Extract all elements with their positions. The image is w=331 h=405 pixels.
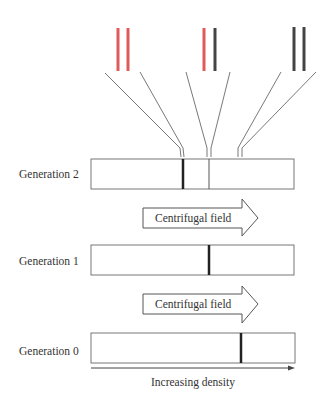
duplex-hybrid	[204, 28, 215, 71]
centrifugal-field-arrow-1: Centrifugal field	[143, 199, 258, 236]
diagram-canvas: Generation 2 Centrifugal field Generatio…	[0, 0, 331, 405]
label-generation-2: Generation 2	[19, 168, 79, 180]
label-generation-0: Generation 0	[19, 345, 79, 357]
duplex-heavy-heavy	[118, 28, 128, 71]
svg-text:Centrifugal field: Centrifugal field	[155, 298, 232, 311]
fan-lines	[105, 72, 316, 157]
density-axis-arrow	[91, 366, 295, 371]
centrifugal-field-arrow-2: Centrifugal field	[143, 286, 258, 323]
svg-text:Centrifugal field: Centrifugal field	[155, 212, 232, 225]
tube-generation-2	[91, 159, 294, 189]
tube-generation-1	[91, 245, 294, 275]
label-generation-1: Generation 1	[19, 255, 79, 267]
tube-generation-0	[91, 333, 295, 363]
duplex-light-light	[294, 27, 304, 71]
density-axis-label: Increasing density	[151, 376, 235, 389]
